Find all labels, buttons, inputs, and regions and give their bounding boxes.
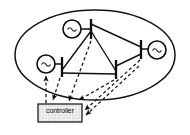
line-bustop-buscenter (91, 31, 116, 71)
measure-buscenter-to-controller (79, 80, 114, 100)
line-buscenter-busright (116, 54, 141, 66)
measure-bustop-to-controller (69, 41, 91, 101)
controller-block[interactable] (38, 104, 82, 122)
command-controller-to-busright (85, 60, 140, 110)
diagram-canvas (0, 0, 190, 135)
power-system-controller-figure: controller (0, 0, 190, 135)
measure-busleft-to-controller (53, 78, 60, 100)
line-busleft-buscenter (62, 73, 116, 74)
